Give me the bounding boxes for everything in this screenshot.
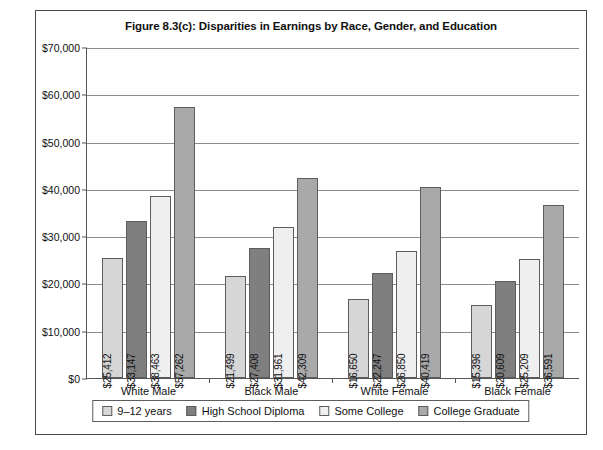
legend-item-label: Some College [334,405,403,417]
bar-value-label: $21,499 [225,354,236,389]
x-axis-tick-mark [332,378,333,383]
legend-item[interactable]: College Graduate [419,405,520,417]
bar[interactable]: $26,850 [396,251,417,378]
legend-swatch-icon [419,406,429,416]
legend-item[interactable]: 9–12 years [102,405,171,417]
bar[interactable]: $42,309 [297,178,318,378]
bar[interactable]: $27,408 [249,248,270,378]
bar-value-label: $25,412 [102,354,113,389]
figure-frame: Figure 8.3(c): Disparities in Earnings b… [35,10,587,435]
y-axis-tick-mark [82,379,87,380]
bar-group-bars: $16,650$22,247$26,850$40,419 [333,48,456,378]
y-axis-tick-label: $0 [68,373,80,385]
x-axis-tick-mark [455,378,456,383]
bar-value-label: $15,396 [471,354,482,389]
bar-group: $21,499$27,408$31,961$42,309Black Male [210,48,333,378]
bar[interactable]: $33,147 [126,221,147,378]
bar-value-label: $20,609 [495,354,506,389]
chart-title: Figure 8.3(c): Disparities in Earnings b… [36,20,586,32]
y-axis-tick-label: $10,000 [42,326,80,338]
bar-value-label: $36,591 [543,354,554,389]
bar-group-bars: $15,396$20,609$25,209$36,591 [456,48,579,378]
bar[interactable]: $36,591 [543,205,564,378]
bar-value-label: $25,209 [519,354,530,389]
bar-value-label: $31,961 [273,354,284,389]
bar-group-bars: $25,412$33,147$38,463$57,262 [87,48,210,378]
legend-item-label: 9–12 years [117,405,171,417]
bar[interactable]: $40,419 [420,187,441,378]
y-axis-tick-label: $50,000 [42,137,80,149]
bar-group: $15,396$20,609$25,209$36,591Black Female [456,48,579,378]
bar-value-label: $26,850 [396,354,407,389]
legend-item[interactable]: High School Diploma [187,405,305,417]
bar-value-label: $40,419 [420,354,431,389]
bar[interactable]: $25,209 [519,259,540,378]
bar-group: $16,650$22,247$26,850$40,419White Female [333,48,456,378]
bar[interactable]: $25,412 [102,258,123,378]
legend-swatch-icon [102,406,112,416]
bar-group-bars: $21,499$27,408$31,961$42,309 [210,48,333,378]
legend-swatch-icon [319,406,329,416]
x-axis-category-label: White Male [87,385,210,397]
bar[interactable]: $57,262 [174,107,195,378]
y-axis-tick-label: $30,000 [42,231,80,243]
bar-value-label: $57,262 [174,354,185,389]
bar-value-label: $42,309 [297,354,308,389]
x-axis-tick-mark [209,378,210,383]
bar[interactable]: $31,961 [273,227,294,378]
bar-value-label: $33,147 [126,354,137,389]
x-axis-category-label: Black Female [456,385,579,397]
bar-value-label: $16,650 [348,354,359,389]
legend-swatch-icon [187,406,197,416]
legend-item-label: High School Diploma [202,405,305,417]
bar-value-label: $38,463 [150,354,161,389]
bar[interactable]: $15,396 [471,305,492,378]
bar[interactable]: $16,650 [348,299,369,378]
plot-area: $70,000$60,000$50,000$40,000$30,000$20,0… [86,48,579,379]
bar-groups: $25,412$33,147$38,463$57,262White Male$2… [87,48,579,378]
legend-item-label: College Graduate [434,405,520,417]
legend-item[interactable]: Some College [319,405,403,417]
bar[interactable]: $21,499 [225,276,246,378]
y-axis-tick-label: $40,000 [42,184,80,196]
bar[interactable]: $20,609 [495,281,516,378]
x-axis-category-label: White Female [333,385,456,397]
bar[interactable]: $22,247 [372,273,393,378]
x-axis-category-label: Black Male [210,385,333,397]
bar-value-label: $22,247 [372,354,383,389]
chart-legend: 9–12 yearsHigh School DiplomaSome Colleg… [92,400,529,422]
y-axis-tick-label: $20,000 [42,278,80,290]
bar-group: $25,412$33,147$38,463$57,262White Male [87,48,210,378]
y-axis-tick-label: $60,000 [42,89,80,101]
y-axis-tick-label: $70,000 [42,42,80,54]
bar-value-label: $27,408 [249,354,260,389]
bar[interactable]: $38,463 [150,196,171,378]
